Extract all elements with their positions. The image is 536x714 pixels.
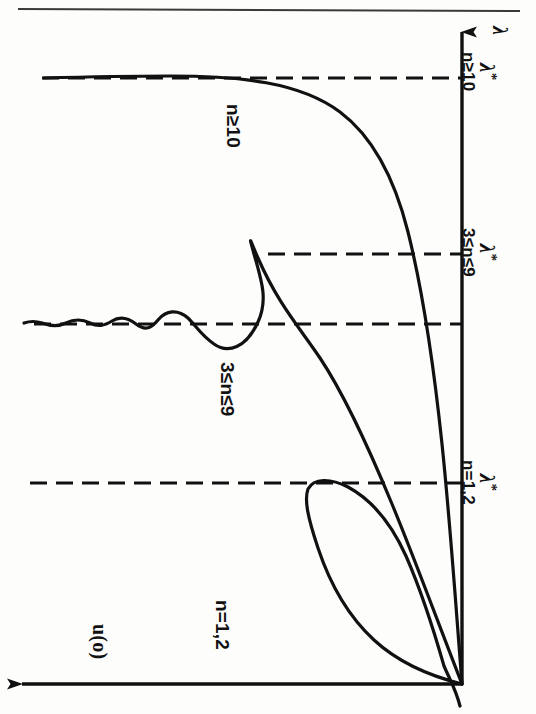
curve-n-ge-10: [44, 76, 462, 684]
branch-label-n-ge-10: n≥10: [223, 104, 243, 148]
critical-label-n-1-2: λ* n=1,2: [459, 460, 499, 505]
critical-range-n-3-9: 3≤n≤9: [459, 228, 477, 277]
page-rule: [18, 9, 520, 11]
critical-label-n-ge-10: λ* n≥10: [459, 52, 499, 91]
lambda-axis-label: λ: [489, 26, 510, 35]
figure-root: λ u(o) n≥10 3≤n≤9 n=1,2 λ* n≥10 λ* 3≤n≤9…: [0, 0, 536, 714]
curve-n-3-9: [24, 241, 462, 684]
critical-label-n-3-9: λ* 3≤n≤9: [459, 228, 499, 277]
critical-symbol-n-1-2: λ*: [476, 460, 499, 505]
critical-range-n-ge-10: n≥10: [459, 52, 477, 91]
branch-label-n-1-2: n=1,2: [212, 600, 232, 650]
branch-label-n-3-9: 3≤n≤9: [217, 362, 237, 417]
critical-symbol-n-ge-10: λ*: [476, 52, 499, 91]
critical-symbol-n-3-9: λ*: [476, 228, 499, 277]
critical-range-n-1-2: n=1,2: [459, 460, 477, 505]
bifurcation-diagram-svg: [0, 0, 536, 714]
curve-n-1-2: [306, 480, 462, 706]
u-axis-label: u(o): [89, 624, 110, 659]
